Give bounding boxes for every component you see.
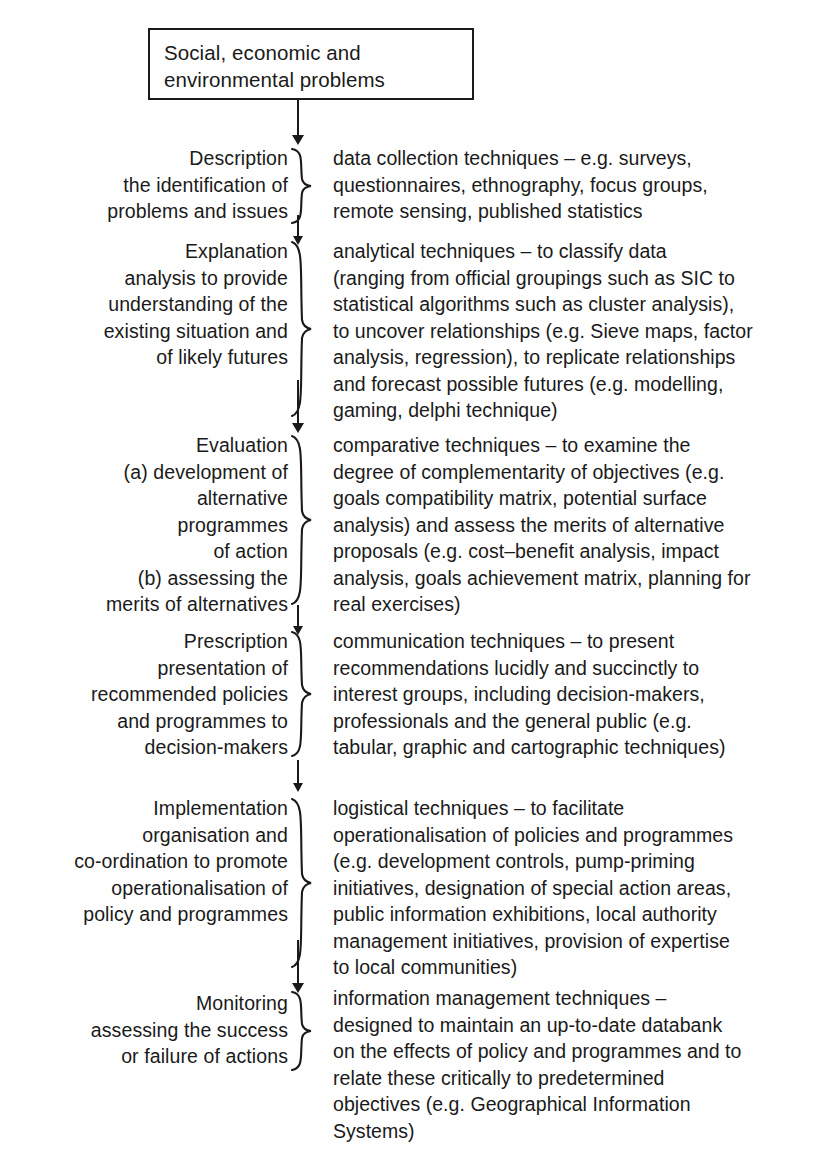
stage-explanation-technique-line-7: gaming, delphi technique) <box>333 397 803 424</box>
stage-implementation-label-line-5: policy and programmes <box>18 901 288 928</box>
stage-explanation-technique-line-6: and forecast possible futures (e.g. mode… <box>333 371 803 398</box>
stage-evaluation-label-line-1: Evaluation <box>18 432 288 459</box>
stage-explanation-techniques: analytical techniques – to classify data… <box>333 238 803 424</box>
stage-evaluation-technique-line-4: analysis) and assess the merits of alter… <box>333 512 803 539</box>
stage-explanation-label-line-3: understanding of the <box>18 291 288 318</box>
stage-explanation-label-line-1: Explanation <box>18 238 288 265</box>
stage-implementation-technique-line-1: logistical techniques – to facilitate <box>333 795 803 822</box>
problems-box-line-2: environmental problems <box>164 66 472 93</box>
stage-explanation-technique-line-3: statistical algorithms such as cluster a… <box>333 291 803 318</box>
stage-evaluation-label-line-3: alternative <box>18 485 288 512</box>
stage-evaluation-label: Evaluation (a) development of alternativ… <box>18 432 288 618</box>
stage-explanation-label-line-2: analysis to provide <box>18 265 288 292</box>
brace-icon-prescription <box>286 630 328 758</box>
stage-explanation-technique-line-2: (ranging from official groupings such as… <box>333 265 803 292</box>
stage-implementation-label-line-1: Implementation <box>18 795 288 822</box>
stage-implementation-technique-line-2: operationalisation of policies and progr… <box>333 822 803 849</box>
stage-implementation-technique-line-3: (e.g. development controls, pump-priming <box>333 848 803 875</box>
stage-evaluation-label-line-4: programmes <box>18 512 288 539</box>
stage-prescription-label-line-3: recommended policies <box>18 681 288 708</box>
stage-implementation-technique-line-4: initiatives, designation of special acti… <box>333 875 803 902</box>
brace-icon-implementation <box>286 797 328 969</box>
arrow-evaluation-to-prescription <box>297 605 299 627</box>
stage-prescription-label-line-2: presentation of <box>18 655 288 682</box>
flowchart-diagram: Social, economic and environmental probl… <box>0 0 818 1165</box>
stage-prescription-label-line-4: and programmes to <box>18 708 288 735</box>
stage-prescription-technique-line-2: recommendations lucidly and succinctly t… <box>333 655 803 682</box>
stage-monitoring-label-line-1: Monitoring <box>18 990 288 1017</box>
stage-evaluation-label-line-5: of action <box>18 538 288 565</box>
stage-implementation-label: Implementation organisation and co-ordin… <box>18 795 288 928</box>
stage-monitoring-technique-line-6: Systems) <box>333 1118 803 1145</box>
stage-evaluation-technique-line-2: degree of complementarity of objectives … <box>333 459 803 486</box>
stage-monitoring-technique-line-5: objectives (e.g. Geographical Informatio… <box>333 1091 803 1118</box>
stage-evaluation-techniques: comparative techniques – to examine the … <box>333 432 803 618</box>
stage-description-label-line-1: Description <box>18 145 288 172</box>
stage-prescription-techniques: communication techniques – to present re… <box>333 628 803 761</box>
stage-monitoring-technique-line-4: relate these critically to predetermined <box>333 1065 803 1092</box>
stage-evaluation-technique-line-1: comparative techniques – to examine the <box>333 432 803 459</box>
problems-box-line-1: Social, economic and <box>164 39 472 66</box>
stage-prescription-label-line-5: decision-makers <box>18 734 288 761</box>
stage-implementation-label-line-4: operationalisation of <box>18 875 288 902</box>
stage-monitoring-techniques: information management techniques – desi… <box>333 985 803 1144</box>
brace-icon-monitoring <box>286 990 328 1072</box>
stage-explanation-label: Explanation analysis to provide understa… <box>18 238 288 371</box>
stage-prescription-technique-line-5: tabular, graphic and cartographic techni… <box>333 734 803 761</box>
stage-description-label: Description the identification of proble… <box>18 145 288 225</box>
stage-explanation-label-line-5: of likely futures <box>18 344 288 371</box>
stage-explanation-label-line-4: existing situation and <box>18 318 288 345</box>
problems-box: Social, economic and environmental probl… <box>148 28 474 100</box>
stage-description-technique-line-1: data collection techniques – e.g. survey… <box>333 145 803 172</box>
arrow-box-to-description <box>297 100 299 136</box>
stage-description-label-line-3: problems and issues <box>18 198 288 225</box>
stage-prescription-label: Prescription presentation of recommended… <box>18 628 288 761</box>
stage-description-label-line-2: the identification of <box>18 172 288 199</box>
stage-monitoring-label-line-2: assessing the success <box>18 1017 288 1044</box>
stage-implementation-technique-line-7: to local communities) <box>333 954 803 981</box>
stage-implementation-technique-line-5: public information exhibitions, local au… <box>333 901 803 928</box>
stage-explanation-technique-line-1: analytical techniques – to classify data <box>333 238 803 265</box>
stage-implementation-technique-line-6: management initiatives, provision of exp… <box>333 928 803 955</box>
stage-monitoring-label: Monitoring assessing the success or fail… <box>18 990 288 1070</box>
stage-prescription-technique-line-4: professionals and the general public (e.… <box>333 708 803 735</box>
stage-evaluation-label-line-6: (b) assessing the <box>18 565 288 592</box>
stage-prescription-technique-line-3: interest groups, including decision-make… <box>333 681 803 708</box>
stage-monitoring-technique-line-1: information management techniques – <box>333 985 803 1012</box>
brace-icon-evaluation <box>286 434 328 606</box>
stage-monitoring-technique-line-2: designed to maintain an up-to-date datab… <box>333 1012 803 1039</box>
stage-explanation-technique-line-4: to uncover relationships (e.g. Sieve map… <box>333 318 803 345</box>
stage-evaluation-label-line-7: merits of alternatives <box>18 591 288 618</box>
stage-prescription-label-line-1: Prescription <box>18 628 288 655</box>
stage-implementation-label-line-2: organisation and <box>18 822 288 849</box>
stage-description-technique-line-3: remote sensing, published statistics <box>333 198 803 225</box>
stage-prescription-technique-line-1: communication techniques – to present <box>333 628 803 655</box>
brace-icon-description <box>286 147 328 225</box>
arrow-prescription-to-implementation <box>297 760 299 784</box>
stage-implementation-techniques: logistical techniques – to facilitate op… <box>333 795 803 981</box>
stage-evaluation-technique-line-3: goals compatibility matrix, potential su… <box>333 485 803 512</box>
stage-evaluation-technique-line-5: proposals (e.g. cost–benefit analysis, i… <box>333 538 803 565</box>
stage-implementation-label-line-3: co-ordination to promote <box>18 848 288 875</box>
stage-evaluation-technique-line-6: analysis, goals achievement matrix, plan… <box>333 565 803 592</box>
brace-icon-explanation <box>286 240 328 418</box>
stage-evaluation-technique-line-7: real exercises) <box>333 591 803 618</box>
stage-description-technique-line-2: questionnaires, ethnography, focus group… <box>333 172 803 199</box>
stage-monitoring-label-line-3: or failure of actions <box>18 1043 288 1070</box>
stage-evaluation-label-line-2: (a) development of <box>18 459 288 486</box>
stage-description-techniques: data collection techniques – e.g. survey… <box>333 145 803 225</box>
stage-monitoring-technique-line-3: on the effects of policy and programmes … <box>333 1038 803 1065</box>
stage-explanation-technique-line-5: analysis, regression), to replicate rela… <box>333 344 803 371</box>
